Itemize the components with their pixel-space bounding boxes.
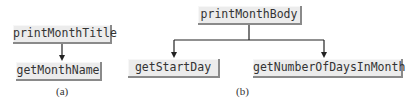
arrowhead-icon [321, 52, 327, 58]
arrowhead-icon [59, 55, 65, 61]
arrowhead-icon [171, 52, 177, 58]
caption-b: (b) [236, 85, 249, 97]
node-printMonthTitle: printMonthTitle [13, 25, 112, 44]
caption-a: (a) [56, 85, 68, 97]
node-getStartDay: getStartDay [128, 59, 220, 78]
node-getNumberOfDaysInMonth: getNumberOfDaysInMonth [253, 59, 403, 78]
node-printMonthBody: printMonthBody [198, 6, 302, 25]
node-getMonthName: getMonthName [16, 62, 102, 81]
